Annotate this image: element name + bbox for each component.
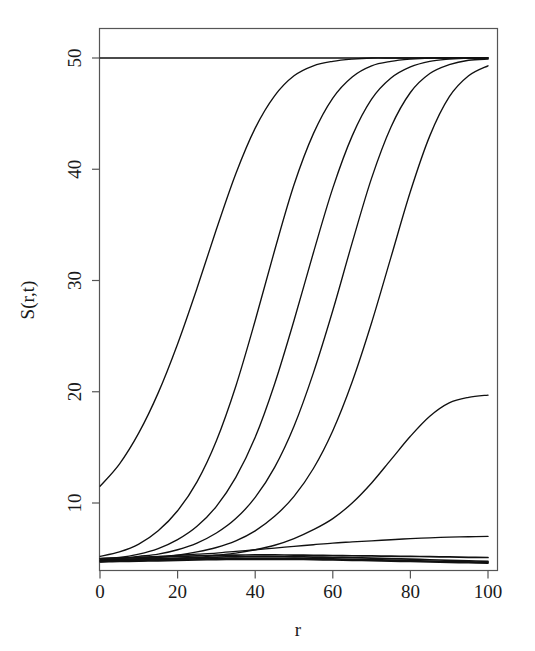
series-line-wave-3: [100, 58, 488, 559]
y-tick-label: 20: [64, 382, 85, 401]
y-tick-label: 40: [64, 160, 85, 179]
x-tick-label: 100: [474, 581, 503, 602]
series-line-wave-2: [100, 58, 488, 556]
x-tick-label: 0: [95, 581, 105, 602]
x-tick-label: 80: [401, 581, 420, 602]
line-chart-svg: 1020304050 020406080100 S(r,t) r: [0, 0, 535, 651]
y-axis-title: S(r,t): [17, 281, 39, 320]
y-axis-ticks: 1020304050: [64, 49, 100, 513]
y-tick-label: 30: [64, 271, 85, 290]
chart-figure: 1020304050 020406080100 S(r,t) r: [0, 0, 535, 651]
series-line-wave-6: [100, 395, 488, 562]
x-tick-label: 60: [323, 581, 342, 602]
y-tick-label: 10: [64, 494, 85, 513]
x-tick-label: 20: [168, 581, 187, 602]
x-tick-label: 40: [246, 581, 265, 602]
y-tick-label: 50: [64, 49, 85, 68]
chart-series-group: [100, 58, 488, 563]
series-line-wave-5: [100, 66, 488, 561]
x-axis-title: r: [295, 619, 302, 640]
plot-panel-border: [100, 29, 498, 571]
x-axis-ticks: 020406080100: [95, 571, 502, 602]
series-line-wave-1: [100, 58, 488, 486]
